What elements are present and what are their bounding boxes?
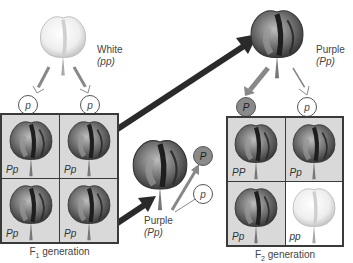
purple-middle-label: Purple (Pp) [144,215,173,239]
f1-genotype: Pp [6,228,18,239]
gamete-purple-middle-recessive: p [193,184,213,204]
f1-genotype: Pp [64,228,76,239]
f1-genotype: Pp [6,164,18,175]
purple-top-genotype: (Pp) [316,56,345,68]
f2-punnett-grid: PP Pp Pp pp [226,116,344,247]
f1-cell: Pp [60,179,117,242]
f2-caption: F2 generation [226,249,344,262]
gamete-purple-middle-dominant: P [193,146,213,166]
f2-cell: Pp [286,118,343,181]
f1-caption: F1 generation [0,246,119,259]
purple-middle-genotype: (Pp) [144,227,173,239]
f1-cell: Pp [2,179,59,242]
f2-genotype: Pp [232,231,244,242]
f1-cell: Pp [2,115,59,178]
f1-caption-text: generation [39,246,89,257]
purple-top-label: Purple (Pp) [316,44,345,68]
purple-middle-phenotype: Purple [144,215,173,227]
f2-genotype: PP [232,167,245,178]
gamete-white-1: p [18,95,38,115]
f2-genotype: Pp [290,167,302,178]
purple-flower-middle [128,132,192,214]
gamete-purple-top-recessive: p [297,97,317,117]
f2-caption-text: generation [265,249,315,260]
gamete-white-2: p [80,95,100,115]
purple-flower-top [246,2,308,82]
f1-genotype: Pp [64,164,76,175]
f2-genotype: pp [290,231,301,242]
f1-punnett-grid: Pp Pp Pp Pp [0,113,119,244]
f2-cell: Pp [228,182,285,245]
gamete-purple-top-dominant: P [236,97,256,117]
f1-cell: Pp [60,115,117,178]
f2-cell: pp [286,182,343,245]
f2-cell: PP [228,118,285,181]
purple-top-phenotype: Purple [316,44,345,56]
